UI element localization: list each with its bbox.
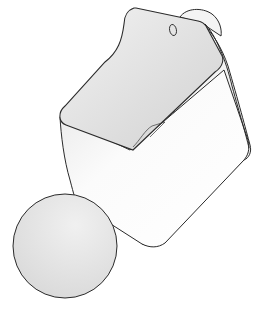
product-illustration (0, 0, 254, 317)
container-drawing (0, 0, 254, 317)
texture-magnifier-circle (13, 194, 117, 298)
